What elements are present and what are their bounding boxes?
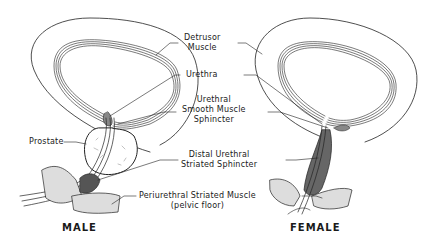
label-distal-urethral-striated-sphincter: Distal Urethral Striated Sphincter: [181, 150, 257, 170]
male-smooth-sphincter: [103, 112, 112, 126]
label-text: Detrusor: [184, 33, 221, 43]
label-periurethral-striated-muscle: Periurethral Striated Muscle (pelvic flo…: [139, 191, 256, 211]
label-text: Striated Sphincter: [181, 160, 257, 170]
label-prostate: Prostate: [29, 137, 64, 147]
female-bladder-lumen: [278, 42, 396, 127]
label-detrusor-muscle: Detrusor Muscle: [184, 33, 221, 53]
label-urethra: Urethra: [186, 70, 218, 80]
female-distal-sphincter: [304, 130, 332, 195]
male-bladder-lumen: [54, 40, 180, 129]
label-text: Distal Urethral: [181, 150, 257, 160]
urinary-sphincter-diagram: Detrusor Muscle Urethra Urethral Smooth …: [0, 0, 428, 239]
label-text: Smooth Muscle: [182, 105, 246, 115]
label-text: Periurethral Striated Muscle: [139, 191, 256, 201]
male-distal-sphincter: [80, 174, 100, 194]
label-text: Muscle: [184, 43, 221, 53]
label-text: Sphincter: [182, 115, 246, 125]
caption-male: MALE: [62, 222, 97, 233]
female-pelvic-floor-left: [270, 179, 300, 206]
label-text: Urethral: [182, 95, 246, 105]
label-text: (pelvic floor): [139, 201, 256, 211]
label-urethral-smooth-muscle-sphincter: Urethral Smooth Muscle Sphincter: [182, 95, 246, 125]
caption-female: FEMALE: [290, 222, 341, 233]
female-detrusor-outline: [255, 18, 417, 142]
